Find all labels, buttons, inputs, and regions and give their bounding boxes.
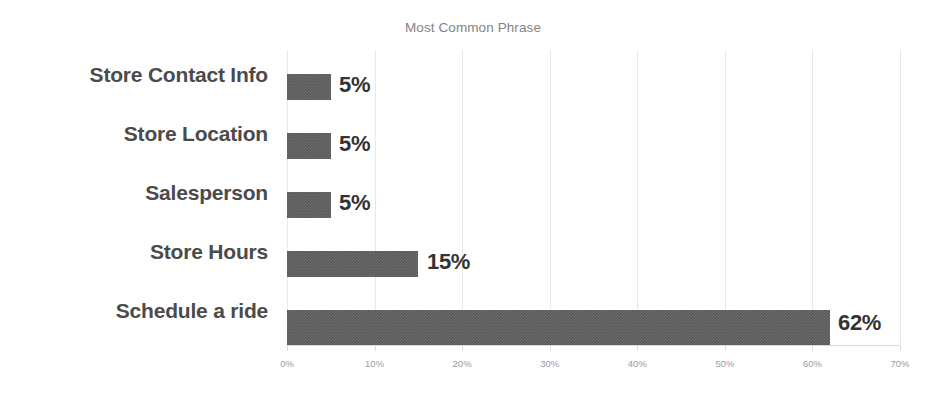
category-label: Store Hours xyxy=(0,240,268,264)
bar xyxy=(287,133,331,159)
bar xyxy=(287,310,830,345)
tick-mark xyxy=(812,346,813,351)
x-tick-label: 10% xyxy=(355,358,395,369)
category-label: Store Location xyxy=(0,122,268,146)
chart-container: Most Common Phrase Store Contact Info 5%… xyxy=(0,0,946,404)
bar-row: Store Hours 15% xyxy=(0,237,946,295)
bar-row: Salesperson 5% xyxy=(0,178,946,236)
x-tick-label: 40% xyxy=(617,358,657,369)
bar-row: Store Location 5% xyxy=(0,119,946,177)
x-tick-label: 20% xyxy=(442,358,482,369)
x-tick-label: 60% xyxy=(792,358,832,369)
bar-row: Store Contact Info 5% xyxy=(0,60,946,118)
tick-mark xyxy=(462,346,463,351)
category-label: Schedule a ride xyxy=(0,299,268,323)
tick-mark xyxy=(287,346,288,351)
bar xyxy=(287,251,418,277)
bar-value-label: 5% xyxy=(339,131,370,157)
category-label: Salesperson xyxy=(0,181,268,205)
x-tick-label: 50% xyxy=(705,358,745,369)
category-label: Store Contact Info xyxy=(0,63,268,87)
x-tick-label: 0% xyxy=(267,358,307,369)
chart-title: Most Common Phrase xyxy=(0,20,946,35)
bar-value-label: 5% xyxy=(339,190,370,216)
bar xyxy=(287,192,331,218)
bar xyxy=(287,74,331,100)
bar-value-label: 15% xyxy=(427,249,470,275)
tick-mark xyxy=(900,346,901,351)
bar-value-label: 62% xyxy=(838,310,881,336)
tick-mark xyxy=(637,346,638,351)
tick-mark xyxy=(550,346,551,351)
tick-mark xyxy=(375,346,376,351)
tick-mark xyxy=(725,346,726,351)
x-tick-label: 70% xyxy=(880,358,920,369)
bar-value-label: 5% xyxy=(339,72,370,98)
x-tick-label: 30% xyxy=(530,358,570,369)
bar-row: Schedule a ride 62% xyxy=(0,296,946,354)
